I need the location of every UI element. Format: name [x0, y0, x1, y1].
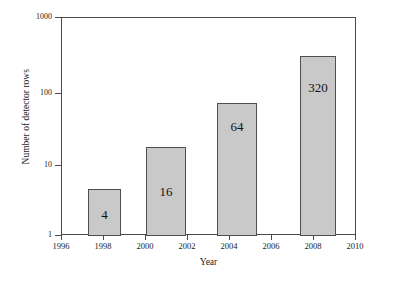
x-axis-tick-label-1996: 1996: [41, 242, 81, 251]
y-axis-tick-label-10: 10: [12, 161, 52, 169]
x-axis-tick-label-2002: 2002: [167, 242, 207, 251]
bar-label-2008: 320: [301, 81, 335, 94]
y-axis-tick-label-1000-wrap: 1000: [10, 13, 52, 23]
x-axis-title: Year: [61, 258, 356, 268]
y-axis-tick-label-100: 100: [12, 89, 52, 97]
x-axis-tick-2004: [229, 235, 230, 240]
y-axis-tick-label-1-wrap: 1: [10, 231, 52, 241]
bar-label-2000: 16: [147, 185, 185, 198]
bar-1998: 4: [88, 189, 121, 236]
bar-2000: 16: [146, 147, 186, 236]
y-axis-tick-label-1: 1: [12, 231, 52, 239]
x-axis-tick-label-2010: 2010: [335, 242, 375, 251]
x-axis-tick-label-2004: 2004: [209, 242, 249, 251]
x-axis-tick-label-1998: 1998: [83, 242, 123, 251]
x-axis-tick-2008: [313, 235, 314, 240]
x-axis-tick-label-2000: 2000: [125, 242, 165, 251]
bar-label-2004: 64: [218, 120, 256, 133]
x-axis-tick-2010: [355, 235, 356, 240]
x-axis-tick-1998: [103, 235, 104, 240]
plot-area: 4 16 64 320: [61, 17, 356, 235]
bar-2004: 64: [217, 103, 257, 236]
x-axis-tick-2000: [145, 235, 146, 240]
bar-2008: 320: [300, 56, 336, 236]
figure-bar-chart-detector-rows: 1000 100 10 1 Number of detector rows 4 …: [0, 0, 396, 281]
y-axis-tick-label-1000: 1000: [12, 13, 52, 21]
x-axis-tick-2002: [187, 235, 188, 240]
x-axis-tick-2006: [271, 235, 272, 240]
x-axis-tick-1996: [61, 235, 62, 240]
bar-label-1998: 4: [89, 208, 120, 221]
x-axis-tick-label-2006: 2006: [251, 242, 291, 251]
x-axis-tick-label-2008: 2008: [293, 242, 333, 251]
y-axis-title: Number of detector rows: [22, 37, 32, 197]
